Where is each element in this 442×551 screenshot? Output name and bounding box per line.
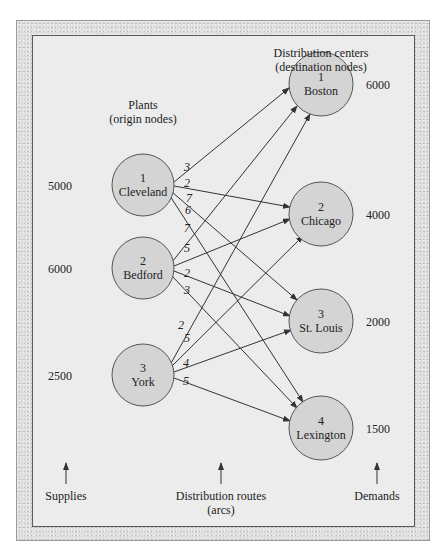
cost-york-stlouis: 4 [183,356,189,370]
arc-york-stlouis [174,330,291,372]
node-label-bedford: 2 Bedford [111,254,175,282]
demand-lexington: 1500 [366,422,390,436]
demand-stlouis: 2000 [366,315,390,329]
cost-bedford-stlouis: 2 [184,266,190,280]
arc-york-chicago [171,236,303,367]
arc-bedford-chicago [174,219,290,266]
supply-cleveland: 5000 [48,179,72,193]
cost-bedford-lexington: 3 [184,283,190,297]
origin-heading: Plants (origin nodes) [103,98,183,126]
node-label-boston: 1 Boston [289,70,353,98]
arc-bedford-boston [172,106,297,262]
cost-york-lexington: 5 [183,374,189,388]
node-label-chicago: 2 Chicago [289,200,353,228]
routes-label: Distribution routes (arcs) [166,489,276,517]
node-label-cleveland: 1 Cleveland [111,171,175,199]
demand-chicago: 4000 [366,208,390,222]
cost-york-chicago: 5 [184,331,190,345]
arc-cleveland-boston [174,88,289,182]
cost-bedford-chicago: 5 [184,241,190,255]
cost-bedford-boston: 7 [184,221,190,235]
supply-bedford: 6000 [48,262,72,276]
cost-cleveland-chicago: 2 [184,176,190,190]
supply-york: 2500 [48,369,72,383]
node-label-stlouis: 3 St. Louis [289,307,353,335]
cost-cleveland-lexington: 6 [185,203,191,217]
arc-york-lexington [174,378,290,421]
node-label-lexington: 4 Lexington [289,414,353,442]
node-label-york: 3 York [111,361,175,389]
arc-bedford-stlouis [174,271,290,316]
demands-label: Demands [347,489,407,503]
supplies-label: Supplies [36,489,96,503]
cost-cleveland-boston: 3 [184,160,190,174]
cost-york-boston: 2 [178,318,184,332]
demand-boston: 6000 [366,78,390,92]
